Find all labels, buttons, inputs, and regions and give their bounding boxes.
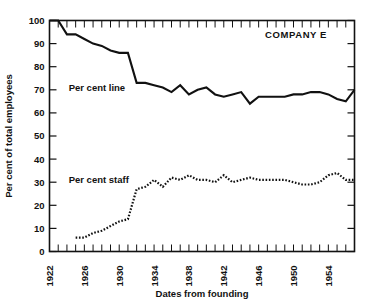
x-axis-ticks-bottom [50, 245, 355, 252]
y-axis-ticks [50, 21, 355, 252]
y-tick-label: 20 [34, 200, 45, 211]
chart-svg: 0102030405060708090100 19221926193019341… [0, 0, 391, 304]
y-tick-label: 100 [29, 15, 45, 26]
x-tick-label: 1922 [44, 265, 55, 286]
y-tick-label: 70 [34, 84, 45, 95]
series-inline-labels: Per cent linePer cent staff [69, 82, 130, 185]
x-tick-label: 1946 [253, 265, 264, 286]
company-annotation: COMPANY E [265, 29, 327, 40]
y-axis-title: Per cent of total employees [3, 74, 14, 198]
y-tick-label: 80 [34, 61, 45, 72]
x-tick-label: 1950 [288, 265, 299, 286]
series-label-per-cent-line: Per cent line [69, 82, 126, 93]
x-tick-label: 1926 [79, 265, 90, 286]
x-tick-label: 1934 [149, 265, 160, 287]
chart-container: 0102030405060708090100 19221926193019341… [0, 0, 391, 304]
x-tick-label: 1954 [323, 265, 334, 287]
x-axis-title: Dates from founding [156, 288, 249, 299]
x-axis-tick-labels: 192219261930193419381942194619501954 [44, 265, 334, 287]
x-tick-label: 1930 [114, 265, 125, 286]
y-tick-label: 40 [34, 154, 45, 165]
y-tick-label: 50 [34, 130, 45, 141]
y-tick-label: 60 [34, 107, 45, 118]
y-tick-label: 0 [39, 246, 44, 257]
x-tick-label: 1942 [218, 265, 229, 286]
y-tick-label: 30 [34, 177, 45, 188]
x-axis-ticks-top [50, 21, 355, 28]
plot-frame [50, 21, 355, 252]
y-tick-label: 90 [34, 38, 45, 49]
series-label-per-cent-staff: Per cent staff [69, 174, 130, 185]
y-tick-label: 10 [34, 223, 45, 234]
y-axis-tick-labels: 0102030405060708090100 [29, 15, 45, 257]
series-group [50, 21, 355, 238]
x-tick-label: 1938 [183, 265, 194, 286]
